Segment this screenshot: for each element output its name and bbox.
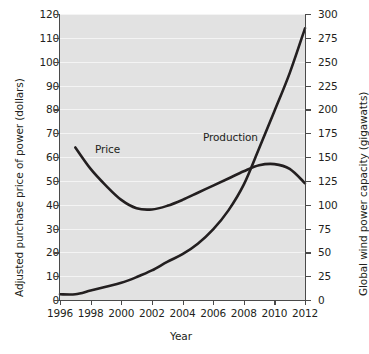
y-axis-right-tick-mark — [306, 276, 311, 277]
y-axis-right-tick-label: 0 — [318, 295, 358, 306]
y-axis-right-tick-mark — [306, 252, 311, 253]
y-axis-left-tick-label: 20 — [19, 247, 59, 258]
y-axis-left-tick-mark — [54, 62, 59, 63]
y-axis-left-tick-label: 90 — [19, 81, 59, 92]
y-axis-left-tick-label: 80 — [19, 104, 59, 115]
y-axis-left-tick-label: 100 — [19, 57, 59, 68]
y-axis-left-tick-label: 50 — [19, 176, 59, 187]
x-axis-tick-mark — [274, 300, 275, 305]
y-axis-right-tick-mark — [306, 38, 311, 39]
y-axis-left-tick-mark — [54, 300, 59, 301]
y-axis-left-tick-label: 0 — [19, 295, 59, 306]
y-axis-right-tick-mark — [306, 157, 311, 158]
x-axis-tick-mark — [121, 300, 122, 305]
y-axis-right-tick-mark — [306, 86, 311, 87]
y-axis-right-tick-label: 175 — [318, 128, 358, 139]
y-axis-right-tick-mark — [306, 62, 311, 63]
production-series-label: Production — [203, 131, 258, 143]
x-axis-tick-mark — [213, 300, 214, 305]
plot-area: Price Production — [60, 14, 305, 300]
x-axis-tick-mark — [305, 300, 306, 305]
y-axis-right-tick-label: 275 — [318, 33, 358, 44]
y-axis-right-tick-label: 125 — [318, 176, 358, 187]
y-axis-right-title: Global wind power capacity (gigawatts) — [357, 92, 369, 296]
y-axis-left-tick-mark — [54, 157, 59, 158]
x-axis-tick-mark — [183, 300, 184, 305]
y-axis-left-tick-mark — [54, 109, 59, 110]
y-axis-right-tick-label: 250 — [318, 57, 358, 68]
x-axis-tick-label: 2012 — [285, 308, 325, 319]
y-axis-right-tick-label: 300 — [318, 9, 358, 20]
y-axis-left-tick-mark — [54, 38, 59, 39]
y-axis-right-tick-label: 150 — [318, 152, 358, 163]
y-axis-right-tick-label: 50 — [318, 247, 358, 258]
y-axis-right-tick-mark — [306, 14, 311, 15]
y-axis-right-tick-mark — [306, 300, 311, 301]
y-axis-left-tick-mark — [54, 229, 59, 230]
left-axis-spine — [59, 14, 60, 301]
data-curves — [60, 14, 305, 300]
y-axis-right-tick-mark — [306, 133, 311, 134]
y-axis-right-tick-label: 100 — [318, 200, 358, 211]
x-axis-tick-mark — [60, 300, 61, 305]
y-axis-left-tick-mark — [54, 276, 59, 277]
y-axis-right-tick-label: 225 — [318, 81, 358, 92]
y-axis-left-tick-label: 110 — [19, 33, 59, 44]
y-axis-left-tick-label: 120 — [19, 9, 59, 20]
y-axis-left-tick-label: 60 — [19, 152, 59, 163]
production-line — [60, 28, 305, 294]
x-axis-tick-mark — [244, 300, 245, 305]
y-axis-left-tick-mark — [54, 205, 59, 206]
y-axis-right-tick-label: 25 — [318, 271, 358, 282]
y-axis-left-tick-mark — [54, 181, 59, 182]
x-axis-tick-mark — [91, 300, 92, 305]
y-axis-right-tick-mark — [306, 229, 311, 230]
y-axis-left-tick-label: 70 — [19, 128, 59, 139]
y-axis-left-tick-mark — [54, 86, 59, 87]
y-axis-left-tick-mark — [54, 133, 59, 134]
x-axis-tick-mark — [152, 300, 153, 305]
price-line — [75, 147, 305, 209]
y-axis-right-tick-mark — [306, 109, 311, 110]
y-axis-left-tick-label: 30 — [19, 224, 59, 235]
y-axis-left-tick-mark — [54, 252, 59, 253]
x-axis-title: Year — [0, 330, 362, 342]
y-axis-right-tick-label: 200 — [318, 104, 358, 115]
y-axis-right-tick-mark — [306, 181, 311, 182]
y-axis-left-tick-mark — [54, 14, 59, 15]
y-axis-left-tick-label: 40 — [19, 200, 59, 211]
y-axis-right-tick-label: 75 — [318, 224, 358, 235]
y-axis-right-tick-mark — [306, 205, 311, 206]
price-series-label: Price — [95, 143, 120, 155]
y-axis-left-tick-label: 10 — [19, 271, 59, 282]
